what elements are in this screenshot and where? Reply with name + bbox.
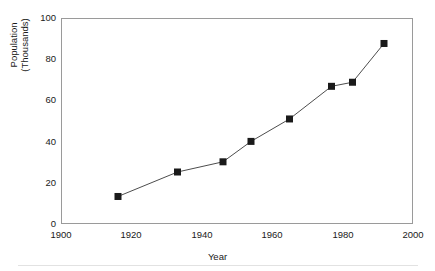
x-tick-label: 2000 xyxy=(393,230,433,240)
scan-artifact-line xyxy=(18,265,418,266)
population-line-chart: Population (Thousands) 100 80 60 40 20 0… xyxy=(0,0,435,271)
x-tick-label: 1940 xyxy=(182,230,222,240)
x-tick-label: 1980 xyxy=(323,230,363,240)
x-axis-tick-labels: 1900 1920 1940 1960 1980 2000 xyxy=(0,0,435,271)
x-tick-label: 1900 xyxy=(41,230,81,240)
x-tick-label: 1960 xyxy=(252,230,292,240)
x-axis-label: Year xyxy=(0,251,435,262)
x-tick-label: 1920 xyxy=(111,230,151,240)
